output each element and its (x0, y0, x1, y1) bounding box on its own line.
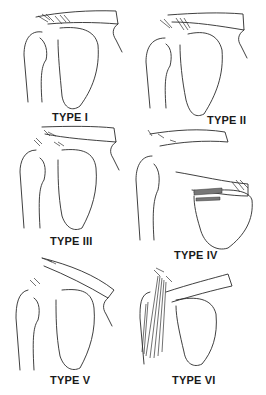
humerus (140, 292, 150, 364)
humerus (146, 38, 171, 108)
muscle-fibers (142, 276, 166, 358)
scapula (180, 33, 222, 116)
diagram-canvas (0, 0, 266, 395)
panel-type-2-drawing (146, 13, 247, 116)
scapula (56, 290, 94, 370)
humerus (20, 150, 45, 228)
clavicle (166, 274, 232, 302)
clavicle (168, 13, 244, 30)
acromion-ligaments (30, 258, 56, 286)
acromion-ligaments (160, 18, 190, 30)
panel-label-type-1: TYPE I (52, 112, 88, 123)
panel-label-type-4: TYPE IV (174, 250, 218, 261)
skin-contour (104, 298, 112, 326)
acromion-ligaments (148, 130, 248, 192)
scapula (58, 150, 96, 230)
acromion-ligaments (154, 268, 172, 282)
panel-label-type-6: TYPE VI (172, 375, 216, 386)
scapula (58, 28, 98, 109)
clavicle-elevated (42, 258, 114, 298)
panel-label-type-2: TYPE II (207, 115, 246, 126)
panel-type-6-drawing (140, 268, 232, 366)
skin-contour (113, 24, 122, 52)
panel-type-5-drawing (16, 258, 114, 370)
panel-type-3-drawing (20, 126, 119, 229)
torn-ligaments (194, 188, 222, 201)
panel-label-type-3: TYPE III (50, 236, 93, 247)
skin-contour (111, 142, 119, 170)
skin-contour (239, 30, 247, 58)
panel-type-1-drawing (24, 11, 122, 109)
acromion-ligaments (34, 130, 64, 146)
humerus (16, 290, 39, 370)
clavicle (36, 11, 118, 24)
scapula (176, 298, 216, 365)
humerus (24, 32, 47, 102)
clavicle (150, 130, 228, 146)
humerus (136, 156, 159, 240)
panel-label-type-5: TYPE V (50, 375, 90, 386)
panel-type-4-drawing (136, 130, 252, 249)
